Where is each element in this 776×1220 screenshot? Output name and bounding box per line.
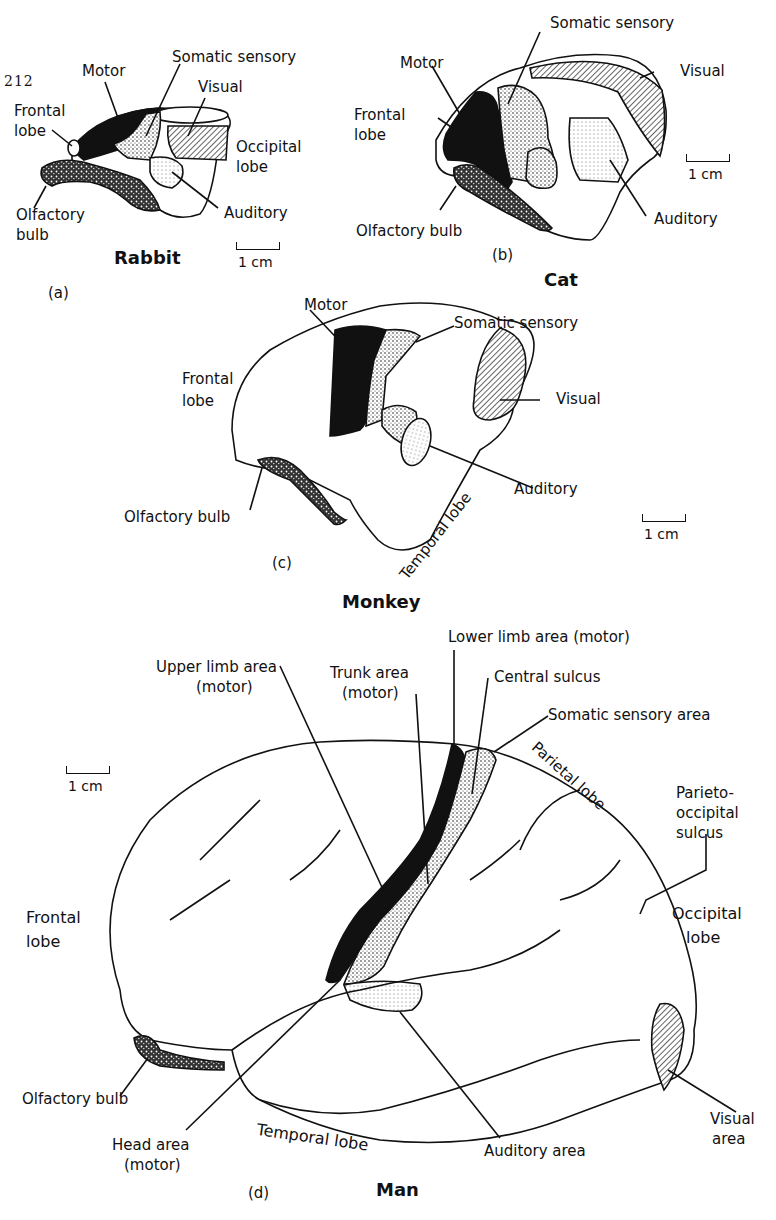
monkey-panel-letter: (c) [272,554,292,573]
human-label-visual-1: Visual [710,1110,755,1129]
cat-brain [432,32,666,240]
cat-species-title: Cat [544,270,578,289]
cat-label-somatic-sensory: Somatic sensory [550,14,674,33]
human-label-frontal-1: Frontal [26,908,81,927]
rabbit-label-somatic-sensory: Somatic sensory [172,48,296,67]
cat-label-auditory: Auditory [654,210,718,229]
rabbit-species-title: Rabbit [114,248,181,267]
cat-label-frontal-1: Frontal [354,106,405,125]
human-panel-letter: (d) [248,1184,269,1203]
monkey-label-olfactory-bulb: Olfactory bulb [124,508,230,527]
rabbit-label-auditory: Auditory [224,204,288,223]
monkey-label-frontal-2: lobe [182,392,214,411]
monkey-label-visual: Visual [556,390,601,409]
page-number: 212 [4,72,34,91]
cat-label-olfactory-bulb: Olfactory bulb [356,222,462,241]
human-label-central-sulcus: Central sulcus [494,668,600,687]
cat-panel-letter: (b) [492,246,513,265]
human-label-trunk-1: Trunk area [330,664,409,683]
monkey-label-motor: Motor [304,296,347,315]
monkey-label-auditory: Auditory [514,480,578,499]
rabbit-label-occipital-2: lobe [236,158,268,177]
human-label-trunk-2: (motor) [342,684,399,703]
human-label-somatic-sensory-area: Somatic sensory area [548,706,710,725]
rabbit-label-frontal-2: lobe [14,122,46,141]
human-label-parieto-occipital-3: sulcus [676,824,723,843]
human-scale-label: 1 cm [68,778,103,794]
human-species-title: Man [376,1180,419,1199]
cat-label-frontal-2: lobe [354,126,386,145]
human-label-parieto-occipital-2: occipital [676,804,739,823]
human-label-upper-limb-1: Upper limb area [156,658,277,677]
monkey-brain [232,303,540,550]
human-label-occipital-2: lobe [686,928,720,947]
monkey-scale-label: 1 cm [644,526,679,542]
human-label-occipital-1: Occipital [672,904,742,923]
human-label-lower-limb: Lower limb area (motor) [448,628,630,647]
human-label-visual-2: area [712,1130,745,1149]
cat-label-motor: Motor [400,54,443,73]
rabbit-label-visual: Visual [198,78,243,97]
monkey-label-somatic-sensory: Somatic sensory [454,314,578,333]
human-label-parieto-occipital-1: Parieto- [676,784,734,803]
rabbit-label-olfactory-1: Olfactory [16,206,85,225]
human-label-upper-limb-2: (motor) [196,678,253,697]
monkey-species-title: Monkey [342,592,421,611]
rabbit-label-occipital-1: Occipital [236,138,301,157]
rabbit-panel-letter: (a) [48,284,69,303]
human-label-auditory-area: Auditory area [484,1142,586,1161]
human-label-head-area-2: (motor) [124,1156,181,1175]
rabbit-label-motor: Motor [82,62,125,81]
rabbit-scale-label: 1 cm [238,254,273,270]
cat-label-visual: Visual [680,62,725,81]
cat-scale-label: 1 cm [688,166,723,182]
human-label-olfactory-bulb: Olfactory bulb [22,1090,128,1109]
human-label-head-area-1: Head area [112,1136,189,1155]
monkey-label-frontal-1: Frontal [182,370,233,389]
human-label-frontal-2: lobe [26,932,60,951]
rabbit-label-frontal-1: Frontal [14,102,65,121]
rabbit-label-olfactory-2: bulb [16,226,49,245]
